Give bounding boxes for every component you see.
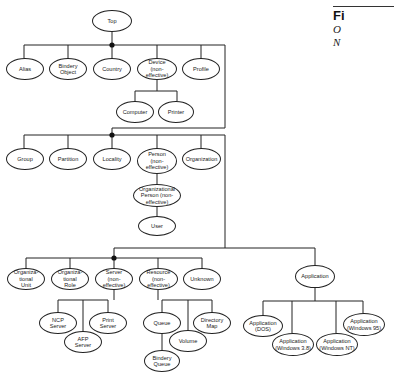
node-application-windows-31: Application (Windows 3.8) (272, 333, 314, 356)
node-afp-server: AFP Server (64, 331, 102, 353)
node-application: Application (295, 265, 335, 288)
figure-caption: Fi O N (333, 6, 394, 49)
node-printer: Printer (158, 101, 194, 123)
node-profile: Profile (182, 58, 220, 80)
node-application-windows-95: Application (Windows 95) (343, 313, 385, 336)
node-volume: Volume (169, 330, 207, 352)
node-print-server: Print Server (89, 312, 127, 334)
node-organizational-role: Organiza- tional Role (51, 268, 89, 290)
node-server: Server (non- effective) (95, 268, 133, 290)
node-bindery-object: Bindery Object (49, 58, 87, 80)
node-unknown: Unknown (183, 268, 221, 290)
node-user: User (138, 216, 176, 236)
node-country: Country (93, 58, 131, 80)
node-organization: Organization (182, 148, 221, 170)
figure-caption-line-2: N (333, 36, 394, 49)
node-group: Group (6, 148, 44, 170)
node-organizational-unit: Organiza- tional Unit (7, 268, 45, 290)
node-top: Top (92, 10, 132, 32)
node-queue: Queue (143, 312, 181, 334)
node-application-windows-nt: Application (Windows NT) (316, 333, 358, 356)
figure-label: Fi (333, 9, 394, 23)
node-computer: Computer (116, 101, 154, 123)
node-organizational-person: Organizational Person (non- effective) (133, 184, 181, 207)
node-bindery-queue: Bindery Queue (144, 350, 180, 372)
caption-rule (333, 6, 394, 7)
node-partition: Partition (49, 148, 87, 170)
node-alias: Alias (6, 58, 44, 80)
node-resource: Resource (non- effective) (139, 268, 178, 290)
figure-caption-line-1: O (333, 23, 394, 36)
node-device: Device (non- effective) (137, 58, 177, 80)
node-person: Person (non- effective) (137, 148, 177, 174)
node-locality: Locality (93, 148, 131, 170)
node-application-dos: Application (DOS) (243, 315, 283, 337)
node-directory-map: Directory Map (193, 312, 231, 334)
node-ncp-server: NCP Server (39, 312, 77, 334)
